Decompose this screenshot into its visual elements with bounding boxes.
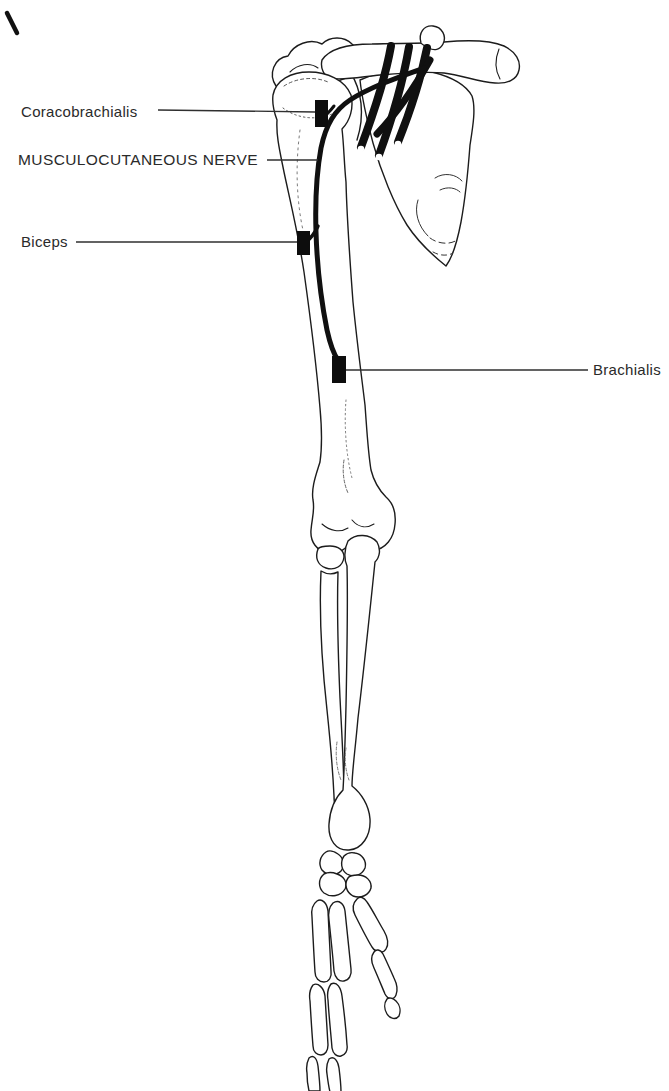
carpal-bones	[320, 851, 372, 897]
anatomical-figure: Coracobrachialis MUSCULOCUTANEOUS NERVE …	[0, 0, 669, 1091]
thumb-bones	[353, 897, 400, 1018]
label-brachialis: Brachialis	[593, 361, 661, 378]
bone-ulna	[317, 546, 344, 569]
biceps-motor-point-marker	[297, 231, 310, 255]
bone-ulna-shaft	[320, 571, 344, 809]
label-coracobrachialis: Coracobrachialis	[21, 103, 138, 120]
brachialis-motor-point-marker	[332, 356, 346, 383]
label-musculocutaneous-nerve: MUSCULOCUTANEOUS NERVE	[18, 151, 258, 168]
finger-bones	[307, 900, 352, 1091]
coracobrachialis-motor-point-marker	[315, 100, 328, 127]
label-biceps: Biceps	[21, 233, 68, 250]
scan-mark	[7, 13, 17, 33]
